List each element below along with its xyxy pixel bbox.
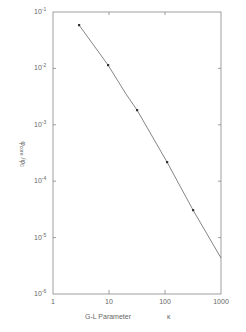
x-tick-label: 1	[51, 298, 55, 305]
x-tick-label: 100	[159, 298, 171, 305]
y-tick-label: 10-3	[34, 119, 46, 128]
x-tick-labels: 1 10 100 1000	[51, 298, 229, 305]
data-point	[192, 209, 194, 211]
y-ticks	[53, 68, 221, 237]
data-point	[166, 161, 168, 163]
x-ticks	[109, 12, 165, 294]
x-tick-label: 1000	[213, 298, 229, 305]
data-point	[78, 24, 80, 26]
data-points	[78, 24, 194, 211]
data-point	[136, 109, 138, 111]
y-tick-label: 10-2	[34, 62, 46, 71]
x-axis-symbol: κ	[167, 313, 171, 320]
y-tick-label: 10-5	[34, 232, 46, 241]
y-tick-label: 10-4	[34, 175, 46, 184]
y-tick-label: 10-1	[34, 6, 46, 15]
x-axis-label: G-L Parameter	[85, 313, 132, 320]
plot-frame	[53, 12, 221, 294]
y-tick-label: 10-6	[34, 288, 46, 297]
x-tick-label: 10	[105, 298, 113, 305]
data-point	[107, 64, 109, 66]
chart: 10-1 10-2 10-3 10-4 10-5 10-6 1 10 100 1…	[0, 0, 246, 332]
data-curve	[79, 25, 221, 258]
y-axis-label: φcore /φ0	[19, 141, 28, 167]
y-tick-labels: 10-1 10-2 10-3 10-4 10-5 10-6	[34, 6, 46, 297]
